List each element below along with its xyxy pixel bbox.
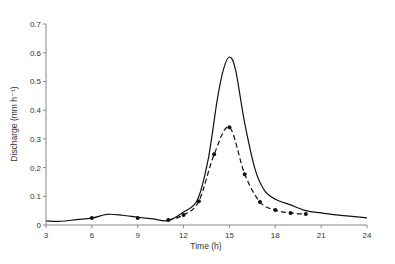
dashed-series-line [168, 127, 306, 220]
x-tick-label: 18 [271, 231, 280, 240]
data-point-marker [258, 200, 262, 204]
y-tick-label: 0.5 [30, 77, 42, 86]
y-tick-label: 0.2 [30, 164, 42, 173]
y-tick-label: 0.1 [30, 192, 42, 201]
x-tick-label: 21 [317, 231, 326, 240]
plot-area [46, 57, 367, 222]
data-point-marker [289, 211, 293, 215]
data-point-marker [243, 172, 247, 176]
x-tick-label: 15 [225, 231, 234, 240]
data-point-marker [136, 216, 140, 220]
data-point-marker [227, 125, 231, 129]
data-point-marker [273, 208, 277, 212]
x-tick-label: 9 [135, 231, 140, 240]
y-tick-label: 0 [37, 221, 42, 230]
x-tick-label: 6 [90, 231, 95, 240]
x-tick-label: 24 [363, 231, 372, 240]
y-tick-label: 0.7 [30, 20, 42, 29]
y-tick-label: 0.6 [30, 49, 42, 58]
data-point-marker [182, 213, 186, 217]
data-point-marker [197, 199, 201, 203]
discharge-chart: 00.10.20.30.40.50.60.73691215182124 Time… [0, 0, 395, 264]
y-tick-label: 0.4 [30, 106, 42, 115]
y-axis-label: Discharge (mm h⁻¹) [9, 86, 19, 162]
data-point-marker [166, 218, 170, 222]
data-point-marker [90, 216, 94, 220]
x-tick-label: 3 [44, 231, 49, 240]
solid-series-line [46, 57, 367, 221]
x-tick-label: 12 [179, 231, 188, 240]
y-tick-label: 0.3 [30, 135, 42, 144]
x-axis-label: Time (h) [190, 241, 221, 251]
axes: 00.10.20.30.40.50.60.73691215182124 [30, 20, 372, 240]
data-point-marker [304, 212, 308, 216]
data-point-marker [212, 152, 216, 156]
